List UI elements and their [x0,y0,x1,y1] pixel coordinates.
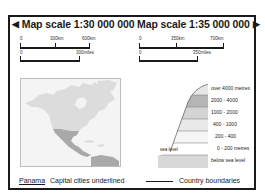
scale-tick-label: 350miles [193,50,211,55]
capital-example: Panama [19,177,45,184]
arrow-right-icon: ▶ [253,19,260,29]
boundary-legend-text: Country boundaries [179,177,240,184]
scale-tick [55,43,56,48]
map-scale-title-left: ◀ Map scale 1:30 000 000 [12,18,135,30]
scale-tick [139,56,140,61]
scale-tick [223,43,224,48]
scale-tick-label: 0 [139,36,142,41]
elevation-band-label: 2000 - 4000 [211,97,238,103]
sea-level-label: sea level [160,147,178,152]
scale-line [139,47,224,49]
map-scale-left-label: Map scale 1:30 000 000 [22,18,135,30]
map-scale-title-right: Map scale 1:35 000 000 ▶ [137,18,260,30]
scale-tick-label: 300miles [76,50,94,55]
scale-tick [79,56,80,61]
elevation-band-label: 1000 - 2000 [211,109,238,115]
elevation-band-label: 200 - 400 [215,133,236,139]
scale-tick-label: 0 [20,36,23,41]
scale-tick [20,43,21,48]
country-boundary-line-icon [146,181,173,182]
elevation-key: sea level over 4000 metres 2000 - 4000 1… [158,84,254,168]
scale-tick-label: 0 [20,50,23,55]
capital-legend-text: Capital cities underlined [50,177,124,184]
elevation-band-label: over 4000 metres [211,85,250,91]
scale-tick [197,56,198,61]
scale-tick-label: 350km [171,36,185,41]
scale-tick-label: 0 [139,50,142,55]
elevation-band-label: 0 - 200 metres [217,145,249,151]
elevation-profile-icon [158,84,210,168]
scale-line [20,60,80,62]
scale-tick-label: 700km [210,36,224,41]
elevation-band-label: 400 - 1000 [213,121,237,127]
scale-tick-label: 300km [50,36,64,41]
scale-tick [89,43,90,48]
scale-tick [20,56,21,61]
arrow-left-icon: ◀ [12,19,19,29]
scale-tick-label: 600km [82,36,96,41]
north-america-map-icon [21,79,120,166]
map-scale-right-label: Map scale 1:35 000 000 [137,18,250,30]
scale-tick [139,43,140,48]
inset-map-north-america [20,78,121,167]
elevation-band-label: below sea level [211,157,245,163]
scale-line [139,60,198,62]
scale-tick [176,43,177,48]
